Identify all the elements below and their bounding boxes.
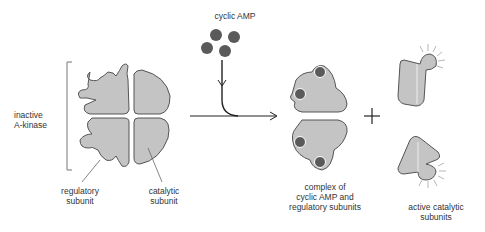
- complex-line2: cyclic AMP and: [280, 192, 370, 202]
- catalytic-line2: subunit: [134, 196, 194, 206]
- catalytic-line1: catalytic: [134, 186, 194, 196]
- camp-molecules: [201, 29, 240, 57]
- catalytic-subunit-top: [134, 70, 170, 114]
- regulatory-line1: regulatory: [50, 186, 110, 196]
- inactive-line1: inactive: [14, 110, 64, 120]
- cyclic-amp-label: cyclic AMP: [205, 11, 265, 21]
- regulatory-subunit-bottom: [80, 118, 129, 167]
- regulatory-line2: subunit: [50, 196, 110, 206]
- complex-line1: complex of: [280, 182, 370, 192]
- active-line1: active catalytic: [396, 202, 476, 212]
- active-catalytic-subunit-bottom: [398, 136, 446, 188]
- active-catalytic-label: active catalytic subunits: [396, 202, 476, 222]
- inactive-line2: A-kinase: [14, 120, 64, 130]
- active-line2: subunits: [396, 212, 476, 222]
- inactive-a-kinase-label: inactive A-kinase: [14, 110, 64, 130]
- complex-line3: regulatory subunits: [280, 202, 370, 212]
- catalytic-subunit-label: catalytic subunit: [134, 186, 194, 206]
- bracket: [67, 62, 72, 170]
- regulatory-subunit-top: [78, 64, 129, 114]
- complex-label: complex of cyclic AMP and regulatory sub…: [280, 182, 370, 212]
- camp-arrow: [222, 60, 238, 116]
- active-catalytic-subunit-top: [398, 44, 445, 106]
- regulatory-subunit-label: regulatory subunit: [50, 186, 110, 206]
